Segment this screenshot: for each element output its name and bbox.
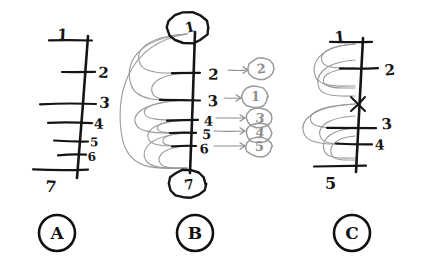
tick-a-3: 3 xyxy=(40,93,111,112)
tick-mark xyxy=(160,100,200,101)
panel-letter-text: B xyxy=(188,223,202,243)
tick-mark xyxy=(58,154,86,155)
tick-label-2: 2 xyxy=(384,61,396,80)
panel-letter-badge-c: C xyxy=(334,215,370,251)
panel-b: 234561721345B xyxy=(120,12,274,251)
connector-arc-c-5 xyxy=(303,104,355,144)
tick-label-7: 7 xyxy=(45,177,57,197)
connector-arc-b-0 xyxy=(139,34,187,73)
tick-label-5: 5 xyxy=(90,135,98,149)
tick-b-2: 2 xyxy=(172,65,219,83)
panel-letter-badge-b: B xyxy=(177,215,213,251)
mapping-arrow-shaft xyxy=(228,70,248,71)
panel-c: 12345C xyxy=(303,27,396,251)
tick-c-1: 1 xyxy=(330,27,372,46)
tick-c-5: 5 xyxy=(314,166,366,193)
panel-a: 1234567A xyxy=(33,25,111,251)
endpoint-top-label: 1 xyxy=(183,18,196,36)
tick-label-2: 2 xyxy=(98,63,110,82)
mapping-target-label-1: 1 xyxy=(251,89,260,104)
tick-label-5: 5 xyxy=(202,127,212,142)
tick-a-7: 7 xyxy=(33,169,88,196)
tick-a-5: 5 xyxy=(54,135,98,149)
tick-mark xyxy=(40,104,96,105)
tick-label-5: 5 xyxy=(325,174,336,193)
mapping-target-label-5: 5 xyxy=(255,139,265,154)
spine-line-b xyxy=(190,32,195,173)
diagram-canvas: 1234567A234561721345B12345C xyxy=(0,0,421,272)
panel-letter-text: C xyxy=(345,223,359,243)
tick-label-4: 4 xyxy=(94,116,105,132)
tick-label-6: 6 xyxy=(199,141,209,157)
mapping-target-label-2: 2 xyxy=(256,61,266,77)
tick-c-2: 2 xyxy=(340,61,396,80)
tick-mark xyxy=(48,122,92,123)
arc-group-c xyxy=(303,44,355,160)
tick-c-4: 4 xyxy=(336,137,385,153)
tick-mark xyxy=(340,68,378,69)
tick-label-2: 2 xyxy=(208,65,219,83)
connector-arc-b-4 xyxy=(135,100,187,133)
endpoint-bottom-node: 7 xyxy=(169,170,207,198)
mapping-4-to-3: 3 xyxy=(216,108,272,128)
tick-label-3: 3 xyxy=(99,93,111,112)
tick-a-1: 1 xyxy=(49,25,92,44)
tick-mark xyxy=(167,120,198,121)
tick-label-3: 3 xyxy=(207,92,219,111)
tick-label-1: 1 xyxy=(57,25,68,44)
tick-mark xyxy=(336,144,372,145)
connector-arc-b-1 xyxy=(129,34,187,100)
connector-arc-c-8 xyxy=(331,136,355,160)
panel-letter-badge-a: A xyxy=(39,215,75,251)
connector-arc-b-3 xyxy=(144,100,187,120)
tick-label-6: 6 xyxy=(87,150,97,165)
mapping-3-to-1: 1 xyxy=(224,86,268,108)
connector-arc-b-2 xyxy=(152,73,187,100)
endpoint-top-node: 1 xyxy=(167,12,209,43)
tick-label-1: 1 xyxy=(334,27,346,46)
mapping-6-to-5: 5 xyxy=(214,137,272,157)
connector-arc-b-7 xyxy=(163,133,187,146)
tick-mark xyxy=(172,146,196,147)
spine-line-a xyxy=(77,36,88,178)
tick-label-4: 4 xyxy=(374,137,385,153)
figure-root: 1234567A234561721345B12345C xyxy=(0,0,421,272)
tick-b-3: 3 xyxy=(160,92,219,111)
panel-letter-text: A xyxy=(49,223,64,243)
connector-arc-c-1 xyxy=(314,44,355,86)
connector-arc-c-0 xyxy=(322,44,355,68)
tick-a-4: 4 xyxy=(48,116,104,132)
connector-arc-b-9 xyxy=(159,146,187,168)
tick-mark xyxy=(314,166,366,167)
endpoint-bottom-label: 7 xyxy=(183,176,195,193)
panels-layer: 1234567A234561721345B12345C xyxy=(33,12,396,251)
arc-group-b xyxy=(120,34,187,168)
mapping-2-to-2: 2 xyxy=(228,58,274,80)
tick-mark xyxy=(33,169,88,170)
tick-mark xyxy=(54,141,88,142)
tick-label-3: 3 xyxy=(381,115,393,134)
